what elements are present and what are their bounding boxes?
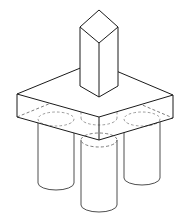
isometric-drawing-canvas: Isometric assembly: square post on slab … (0, 0, 190, 219)
front-leg-body-fill (81, 140, 117, 212)
front-cylindrical-leg (81, 140, 117, 212)
isometric-technical-drawing: Isometric assembly: square post on slab … (0, 0, 190, 219)
vertical-rectangular-post (80, 10, 118, 97)
